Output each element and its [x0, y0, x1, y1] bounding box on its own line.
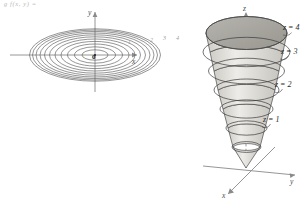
contour-label-2: 2 [150, 37, 153, 43]
contour-label-1: 1 [128, 39, 131, 45]
right-panel-cone-plot: z = 4 z = 3 z = 2 z = 1 z y x [203, 4, 300, 200]
figure-canvas: 0 1 2 3 4 x y [0, 0, 304, 203]
x-axis-label-left: x [131, 57, 136, 66]
level-label-z3: z = 3 [280, 47, 298, 56]
y-axis-label-left: y [87, 8, 92, 17]
level-label-z2: z = 2 [274, 80, 292, 89]
y-axis-right [203, 166, 295, 178]
x-axis-left [10, 53, 137, 58]
contour-label-3: 3 [162, 35, 166, 41]
x-axis-label-right: x [221, 191, 226, 200]
y-axis-label-right: y [289, 177, 294, 186]
level-label-z1: z = 1 [262, 115, 280, 124]
left-panel-contour-plot: 0 1 2 3 4 x y [10, 8, 179, 92]
z-axis-label-right: z [242, 4, 246, 13]
origin-label: 0 [92, 53, 96, 61]
level-label-z4: z = 4 [282, 23, 300, 32]
figure-root: g f(x, y) = [0, 0, 304, 203]
contour-label-4: 4 [176, 35, 179, 41]
